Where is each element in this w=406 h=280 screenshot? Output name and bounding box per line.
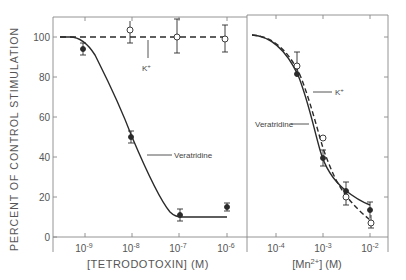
right-kplus-label: K+ [335,87,344,97]
left-x-tick-labels: 10-9 10-8 10-7 10-6 [75,242,234,254]
left-kplus-points [127,19,228,53]
y-tick-100: 100 [33,32,50,43]
x-tick-1e-3: 10-3 [314,242,331,254]
y-tick-20: 20 [39,192,51,203]
y-tick-labels: 0 20 40 60 80 100 [33,32,50,243]
y-tick-0: 0 [44,232,50,243]
left-x-ticks [85,17,227,237]
x-tick-1e-6: 10-6 [217,242,234,254]
x-tick-1e-7: 10-7 [169,242,186,254]
y-tick-60: 60 [39,112,51,123]
x-tick-1e-4: 10-4 [267,242,284,254]
left-veratridine-label: Veratridine [174,151,213,160]
x-tick-1e-2: 10-2 [361,242,378,254]
right-x-tick-labels: 10-4 10-3 10-2 [267,242,378,254]
left-kplus-label: K+ [142,63,151,73]
chart-canvas: 0 20 40 60 80 100 10-9 10-8 10-7 10-6 10… [0,0,406,280]
y-axis-title: PERCENT OF CONTROL STIMULATION [8,27,20,251]
right-veratridine-label: Veratridine [255,120,294,129]
x-tick-1e-8: 10-8 [122,242,139,254]
y-axis-ticks [53,37,57,237]
x-tick-1e-9: 10-9 [75,242,92,254]
y-tick-80: 80 [39,72,51,83]
right-x-axis-title: [Mn2+] (M) [292,257,342,270]
y-tick-40: 40 [39,152,51,163]
left-x-axis-title: [TETRODOTOXIN] (M) [87,258,209,270]
y-axis-title-wrap: PERCENT OF CONTROL STIMULATION [6,36,22,242]
right-y-ticks [384,37,388,197]
